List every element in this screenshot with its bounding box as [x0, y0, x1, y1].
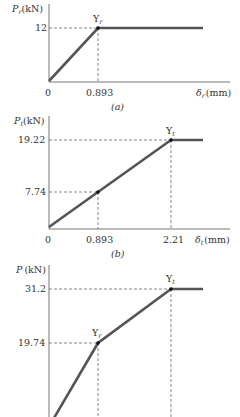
figure: Pr(kN) 12 Yr 0 0.893 δr(mm) (a) Pt(kN) 1…	[0, 0, 240, 417]
yield-point-label-r: Yr	[91, 327, 102, 340]
chart-c: P(kN) 31.2 19.74 Yr Yt	[15, 264, 203, 417]
caption: (b)	[111, 248, 125, 259]
x-tick-label: 0	[45, 234, 51, 245]
y-tick-label: 7.74	[25, 186, 46, 197]
load-curve	[49, 28, 203, 81]
x-tick-label: 2.21	[163, 234, 184, 245]
yield-point-marker	[169, 138, 173, 142]
yield-point-marker-t	[169, 287, 173, 291]
load-curve	[49, 140, 203, 227]
x-axis-label: δt(mm)	[195, 234, 230, 247]
x-tick-label: 0.893	[86, 234, 113, 245]
y-axis-label: Pt(kN)	[13, 115, 45, 128]
yield-point-label: Yr	[92, 13, 103, 26]
y-tick-label: 31.2	[25, 283, 46, 294]
y-tick-label: 19.22	[18, 134, 45, 145]
y-tick-label: 12	[35, 22, 47, 33]
y-tick-label: 19.74	[18, 337, 45, 348]
y-axis-label: Pr(kN)	[11, 3, 43, 16]
yield-point-marker-r	[96, 341, 100, 345]
x-tick-label: 0	[45, 87, 51, 98]
y-axis-label: P(kN)	[15, 264, 46, 275]
load-curve	[54, 289, 203, 417]
x-axis-label: δr(mm)	[196, 87, 231, 100]
yield-point-label: Yt	[165, 125, 175, 138]
yield-point-marker	[96, 26, 100, 30]
yield-point-label-t: Yt	[165, 273, 175, 286]
point-marker	[96, 190, 100, 194]
caption: (a)	[111, 101, 124, 112]
chart-a: Pr(kN) 12 Yr 0 0.893 δr(mm) (a)	[11, 3, 231, 112]
x-tick-label: 0.893	[86, 87, 113, 98]
chart-b: Pt(kN) 19.22 7.74 Yt 0 0.893 2.21 δt(mm)…	[13, 115, 230, 259]
